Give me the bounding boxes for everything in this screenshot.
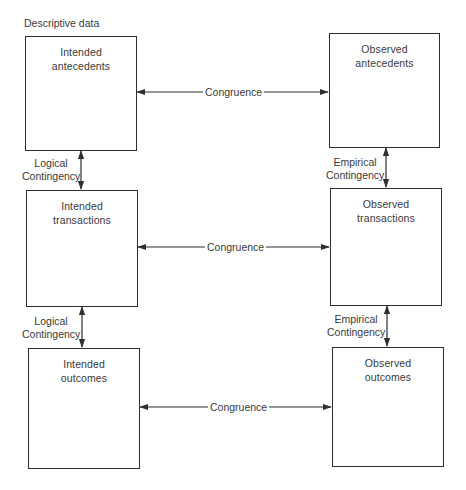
contingency-line2: Contingency xyxy=(327,326,385,339)
congruence-label-antecedents: Congruence xyxy=(203,86,264,98)
box-title-line1: Intended xyxy=(29,358,139,372)
box-intended-antecedents: Intended antecedents xyxy=(25,36,137,151)
box-title-line1: Observed xyxy=(333,357,443,371)
empirical-contingency-label-1: Empirical Contingency xyxy=(326,156,384,182)
contingency-line2: Contingency xyxy=(22,170,80,183)
box-title-line1: Intended xyxy=(27,200,137,214)
box-observed-transactions: Observed transactions xyxy=(330,188,442,306)
contingency-line1: Empirical xyxy=(326,156,384,169)
box-intended-outcomes: Intended outcomes xyxy=(28,348,140,469)
contingency-line1: Logical xyxy=(22,315,80,328)
box-title: Intended outcomes xyxy=(29,358,139,385)
box-title-line1: Observed xyxy=(330,43,439,57)
box-title-line2: antecedents xyxy=(330,57,439,71)
congruence-label-transactions: Congruence xyxy=(205,241,266,253)
box-title: Observed transactions xyxy=(331,198,441,225)
box-title-line2: outcomes xyxy=(29,372,139,386)
box-title-line2: transactions xyxy=(331,212,441,226)
box-intended-transactions: Intended transactions xyxy=(26,190,138,307)
box-title-line2: antecedents xyxy=(26,60,136,74)
box-title: Intended antecedents xyxy=(26,46,136,73)
contingency-line2: Contingency xyxy=(326,169,384,182)
diagram-heading: Descriptive data xyxy=(24,17,99,30)
box-title: Observed outcomes xyxy=(333,357,443,384)
box-observed-antecedents: Observed antecedents xyxy=(329,33,440,148)
logical-contingency-label-1: Logical Contingency xyxy=(22,157,80,183)
contingency-line1: Logical xyxy=(22,157,80,170)
descriptive-data-diagram: Descriptive data Intended antecedents In… xyxy=(0,0,466,490)
contingency-line1: Empirical xyxy=(327,313,385,326)
box-title-line2: transactions xyxy=(27,214,137,228)
box-title-line1: Intended xyxy=(26,46,136,60)
box-observed-outcomes: Observed outcomes xyxy=(332,347,444,467)
box-title: Intended transactions xyxy=(27,200,137,227)
congruence-label-outcomes: Congruence xyxy=(208,401,269,413)
contingency-line2: Contingency xyxy=(22,328,80,341)
logical-contingency-label-2: Logical Contingency xyxy=(22,315,80,341)
box-title-line1: Observed xyxy=(331,198,441,212)
box-title-line2: outcomes xyxy=(333,371,443,385)
box-title: Observed antecedents xyxy=(330,43,439,70)
empirical-contingency-label-2: Empirical Contingency xyxy=(327,313,385,339)
